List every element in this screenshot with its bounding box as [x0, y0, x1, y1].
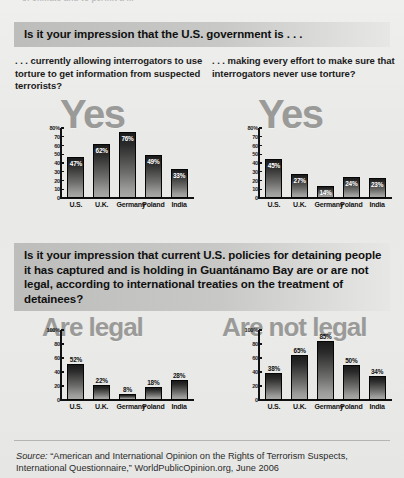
source-label: Source:	[16, 451, 48, 461]
footer-divider	[14, 440, 390, 441]
bar-value-label: 50%	[338, 357, 365, 364]
x-axis-tick-label: Germany	[315, 403, 337, 410]
y-axis-tick-label: 10	[234, 186, 258, 192]
bar-value-label: 45%	[266, 162, 281, 169]
infographic-page: of climate and to permit a ... Is it you…	[0, 0, 404, 478]
x-axis-tick-label: India	[168, 201, 190, 208]
x-axis-labels: U.S.U.K.GermanyPolandIndia	[261, 403, 390, 410]
bar: 62%	[93, 144, 110, 198]
y-axis-tick-label: 20	[234, 178, 258, 184]
y-axis-tick-label: 20	[234, 383, 258, 389]
bar: 24%	[343, 177, 360, 198]
y-axis-tick-label: 20	[36, 178, 60, 184]
y-axis-tick-label: 40	[234, 160, 258, 166]
y-axis-tick-label: 0	[36, 397, 60, 403]
y-axis-tick-label: 60	[36, 143, 60, 149]
bar-group: 14%	[315, 128, 337, 198]
cut-off-text-strip: of climate and to permit a ...	[0, 0, 404, 11]
y-axis-tick-label: 80%	[36, 125, 60, 131]
bar-value-label: 27%	[292, 177, 307, 184]
x-axis-tick-label: U.S.	[263, 403, 285, 410]
subquestion-right-1: . . . making every effort to make sure t…	[212, 55, 400, 80]
bar-value-label: 47%	[68, 160, 83, 167]
bar-group: 47%	[65, 128, 87, 198]
bar-group: 52%	[65, 330, 87, 400]
x-axis-tick-label: Poland	[340, 201, 362, 208]
y-axis-tick-label: 60	[234, 143, 258, 149]
bars-container: 45%27%14%24%23%	[261, 128, 390, 198]
y-axis-tick-label: 70	[36, 134, 60, 140]
bar-group: 24%	[340, 128, 362, 198]
bar: 49%	[145, 155, 162, 198]
bar-value-label: 49%	[146, 158, 161, 165]
bar-group: 33%	[168, 128, 190, 198]
source-text: “American and International Opinion on t…	[16, 451, 348, 473]
bar-group: 23%	[366, 128, 388, 198]
y-axis-tick-label: 0	[234, 397, 258, 403]
y-axis-line	[60, 330, 62, 400]
bar-value-label: 18%	[140, 379, 167, 386]
x-axis-tick-label: U.K.	[91, 201, 113, 208]
bar: 52%	[67, 364, 84, 400]
x-axis-tick-label: Poland	[340, 403, 362, 410]
y-axis-tick-label: 40	[234, 369, 258, 375]
bar-value-label: 33%	[172, 172, 187, 179]
bar-value-label: 14%	[318, 189, 333, 196]
bars-container: 52%22%8%18%28%	[63, 330, 192, 400]
x-axis-tick-label: Germany	[117, 403, 139, 410]
bar-chart-torture-allowing: 80%70605040302010047%62%76%49%33%U.S.U.K…	[10, 128, 196, 216]
y-axis-tick-label: 10	[36, 186, 60, 192]
x-axis-tick-label: Germany	[117, 201, 139, 208]
x-axis-tick-label: Germany	[315, 201, 337, 208]
y-axis-line	[258, 330, 260, 400]
bar-group: 28%	[168, 330, 190, 400]
x-axis-tick-label: Poland	[142, 403, 164, 410]
bar-group: 50%	[340, 330, 362, 400]
question-banner-1-text: Is it your impression that the U.S. gove…	[24, 27, 390, 42]
x-axis-tick-label: U.K.	[91, 403, 113, 410]
question-banner-2-text: Is it your impression that current U.S. …	[24, 248, 390, 306]
bar: 14%	[317, 186, 334, 198]
y-axis-tick-label: 30	[36, 169, 60, 175]
x-axis-tick-label: India	[168, 403, 190, 410]
y-axis-tick-label: 0	[234, 195, 258, 201]
plot-area: 100%80604020038%65%85%50%34%U.S.U.K.Germ…	[234, 330, 392, 400]
bar-group: 34%	[366, 330, 388, 400]
x-axis-tick-label: Poland	[142, 201, 164, 208]
bar: 28%	[171, 380, 188, 400]
bar-group: 27%	[289, 128, 311, 198]
bar-group: 38%	[263, 330, 285, 400]
bar-value-label: 23%	[370, 181, 385, 188]
bar-value-label: 65%	[286, 347, 313, 354]
bar-value-label: 8%	[114, 386, 141, 393]
bar: 22%	[93, 385, 110, 400]
bar-group: 62%	[91, 128, 113, 198]
subquestion-left-1: . . . currently allowing interrogators t…	[15, 55, 203, 93]
bar-group: 76%	[117, 128, 139, 198]
bar-group: 8%	[117, 330, 139, 400]
bar: 34%	[369, 376, 386, 400]
bar-value-label: 62%	[94, 147, 109, 154]
bar-chart-torture-never: 80%70605040302010045%27%14%24%23%U.S.U.K…	[208, 128, 394, 216]
bar-value-label: 52%	[62, 356, 89, 363]
bar: 18%	[145, 387, 162, 400]
cut-off-text: of climate and to permit a ...	[22, 0, 404, 3]
y-axis-tick-label: 70	[234, 134, 258, 140]
x-axis-labels: U.S.U.K.GermanyPolandIndia	[261, 201, 390, 208]
source-note: Source: “American and International Opin…	[16, 450, 394, 474]
bar-value-label: 76%	[120, 135, 135, 142]
bars-container: 47%62%76%49%33%	[63, 128, 192, 198]
plot-area: 80%70605040302010045%27%14%24%23%U.S.U.K…	[234, 128, 392, 198]
bar: 50%	[343, 365, 360, 400]
bar: 85%	[317, 341, 334, 401]
x-axis-tick-label: U.S.	[65, 201, 87, 208]
bar-value-label: 28%	[166, 372, 193, 379]
bar: 45%	[265, 159, 282, 198]
y-axis-tick-label: 0	[36, 195, 60, 201]
bar-group: 85%	[315, 330, 337, 400]
plot-area: 80%70605040302010047%62%76%49%33%U.S.U.K…	[36, 128, 194, 198]
bar: 76%	[119, 132, 136, 199]
bar-chart-are-legal: 100%80604020052%22%8%18%28%U.S.U.K.Germa…	[10, 330, 196, 418]
y-axis-tick-label: 60	[234, 355, 258, 361]
y-axis-tick-label: 30	[234, 169, 258, 175]
